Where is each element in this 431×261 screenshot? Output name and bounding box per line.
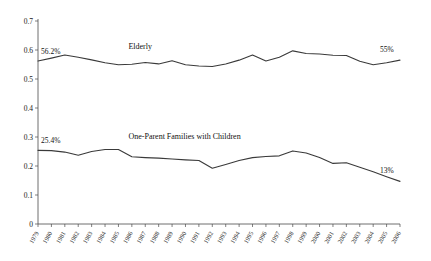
series-lines — [38, 51, 400, 182]
x-tick-label: 1997 — [269, 230, 281, 244]
x-tick-label: 2004 — [363, 229, 376, 244]
y-axis: 00.10.20.30.40.50.60.7 — [24, 17, 38, 229]
series-annotations: Elderly56.2%55%One-Parent Families with … — [41, 42, 394, 175]
x-tick-label: 2002 — [336, 230, 348, 244]
x-tick-label: 1999 — [296, 230, 308, 244]
x-tick-label: 1991 — [188, 230, 200, 244]
x-tick-label: 1985 — [108, 230, 120, 244]
x-tick-label: 2001 — [322, 230, 334, 244]
x-tick-label: 1981 — [54, 230, 66, 244]
x-tick-label: 2000 — [309, 230, 321, 244]
line-chart: 00.10.20.30.40.50.60.7 19791980198119821… — [0, 0, 431, 261]
x-tick-label: 1993 — [215, 230, 227, 244]
x-tick-label: 2003 — [349, 230, 361, 244]
x-axis: 1979198019811982198319841985198619871988… — [28, 224, 402, 244]
x-tick-label: 2006 — [390, 230, 402, 244]
x-tick-label: 1998 — [282, 230, 294, 244]
chart-svg: 00.10.20.30.40.50.60.7 19791980198119821… — [0, 0, 431, 261]
x-tick-label: 1987 — [135, 230, 147, 244]
series-label-one-parent-families: One-Parent Families with Children — [128, 132, 240, 141]
x-tick-label: 1995 — [242, 230, 254, 244]
y-tick-label: 0.3 — [24, 133, 34, 142]
series-line-one-parent-families — [38, 149, 400, 181]
y-tick-label: 0 — [29, 220, 33, 229]
series-line-elderly — [38, 51, 400, 67]
x-tick-label: 1986 — [121, 230, 133, 244]
y-tick-label: 0.1 — [24, 191, 34, 200]
x-tick-label: 2005 — [376, 230, 388, 244]
y-tick-label: 0.6 — [24, 46, 34, 55]
x-tick-label: 1984 — [95, 229, 108, 244]
end-value-label-elderly: 55% — [380, 45, 394, 54]
y-tick-label: 0.2 — [24, 162, 34, 171]
x-tick-label: 1994 — [229, 229, 242, 244]
y-tick-label: 0.4 — [24, 104, 34, 113]
start-value-label-elderly: 56.2% — [41, 47, 60, 56]
x-tick-label: 1983 — [81, 230, 93, 244]
end-value-label-one-parent-families: 13% — [380, 166, 394, 175]
x-tick-label: 1979 — [28, 230, 40, 244]
y-tick-label: 0.7 — [24, 17, 34, 26]
x-tick-label: 1988 — [148, 230, 160, 244]
x-tick-label: 1980 — [41, 230, 53, 244]
y-tick-label: 0.5 — [24, 75, 34, 84]
x-tick-label: 1992 — [202, 230, 214, 244]
x-tick-label: 1990 — [175, 230, 187, 244]
x-tick-label: 1989 — [162, 230, 174, 244]
x-tick-label: 1996 — [255, 230, 267, 244]
series-label-elderly: Elderly — [128, 42, 152, 51]
x-tick-label: 1982 — [68, 230, 80, 244]
start-value-label-one-parent-families: 25.4% — [41, 136, 60, 145]
